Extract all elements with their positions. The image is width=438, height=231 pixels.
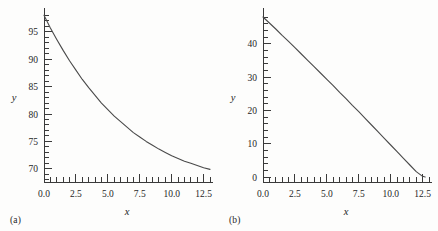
x-tick-label: 12.5 bbox=[195, 189, 212, 199]
y-tick-label: 20 bbox=[248, 106, 258, 116]
y-axis-title: y bbox=[230, 92, 236, 103]
x-axis-title: x bbox=[343, 206, 349, 217]
x-tick-label: 10.0 bbox=[163, 189, 180, 199]
data-curve bbox=[263, 17, 425, 177]
x-tick-label: 7.5 bbox=[134, 189, 146, 199]
y-tick-label: 90 bbox=[29, 55, 39, 65]
y-tick-label: 70 bbox=[29, 164, 39, 174]
y-tick-label: 0 bbox=[252, 173, 257, 183]
y-tick-label: 75 bbox=[29, 137, 39, 147]
x-tick-label: 0.0 bbox=[38, 189, 50, 199]
x-tick-label: 12.5 bbox=[414, 189, 431, 199]
y-tick-label: 80 bbox=[29, 110, 39, 120]
x-tick-label: 5.0 bbox=[102, 189, 114, 199]
x-tick-label: 2.5 bbox=[70, 189, 82, 199]
y-tick-label: 40 bbox=[248, 39, 258, 49]
x-tick-label: 7.5 bbox=[353, 189, 365, 199]
y-tick-label: 95 bbox=[29, 27, 39, 37]
y-axis-title: y bbox=[11, 92, 17, 103]
panel-b: 0.02.55.07.510.012.5010203040xy (b) bbox=[219, 0, 438, 231]
y-tick-label: 10 bbox=[248, 139, 258, 149]
chart-b: 0.02.55.07.510.012.5010203040xy bbox=[219, 0, 438, 231]
x-tick-label: 10.0 bbox=[382, 189, 399, 199]
x-tick-label: 2.5 bbox=[289, 189, 301, 199]
panel-a-tag: (a) bbox=[10, 215, 21, 225]
panel-a: 0.02.55.07.510.012.5707580859095xy (a) bbox=[0, 0, 219, 231]
plot-area-b: 0.02.55.07.510.012.5010203040xy bbox=[230, 8, 432, 217]
x-tick-label: 0.0 bbox=[257, 189, 269, 199]
panel-b-tag: (b) bbox=[229, 215, 241, 225]
x-axis-title: x bbox=[124, 206, 130, 217]
x-tick-label: 5.0 bbox=[321, 189, 333, 199]
y-tick-label: 30 bbox=[248, 73, 258, 83]
chart-a: 0.02.55.07.510.012.5707580859095xy bbox=[0, 0, 219, 231]
y-tick-label: 85 bbox=[29, 82, 39, 92]
data-curve bbox=[44, 15, 210, 169]
figure-container: 0.02.55.07.510.012.5707580859095xy (a) 0… bbox=[0, 0, 438, 231]
plot-area-a: 0.02.55.07.510.012.5707580859095xy bbox=[11, 8, 213, 217]
